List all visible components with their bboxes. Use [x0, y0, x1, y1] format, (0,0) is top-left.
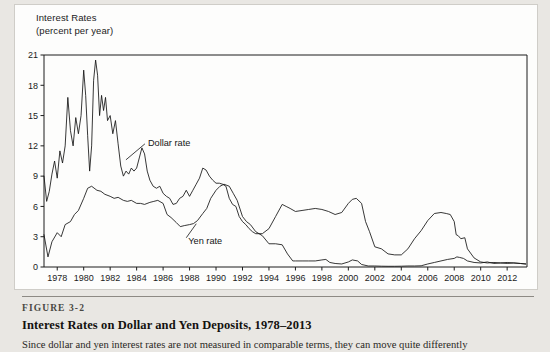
- y-axis-title: Interest Rates (percent per year): [36, 12, 113, 37]
- figure-number: FIGURE 3-2: [22, 303, 538, 313]
- figure-title: Interest Rates on Dollar and Yen Deposit…: [22, 318, 538, 333]
- figure-plate: [14, 4, 538, 290]
- figure-caption: FIGURE 3-2 Interest Rates on Dollar and …: [22, 296, 538, 351]
- figure-caption-text: Since dollar and yen interest rates are …: [22, 338, 538, 351]
